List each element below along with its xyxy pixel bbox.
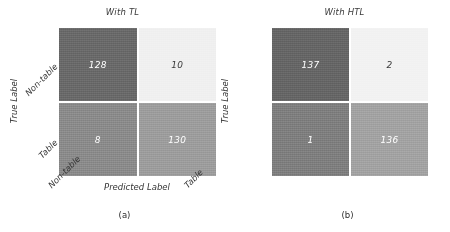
panel-b-cell-0-1: 2	[351, 28, 428, 101]
panel-a-cell-1-1: 130	[139, 103, 217, 176]
panel-a-cell-0-0-value: 128	[89, 60, 107, 70]
panel-b-cell-1-1: 136	[351, 103, 428, 176]
panel-b-y-axis-label: True Label	[220, 79, 230, 123]
panel-b-caption: (b)	[235, 210, 450, 220]
panel-a-caption: (a)	[12, 210, 237, 220]
panel-b-cell-0-0: 137	[272, 28, 349, 101]
confusion-matrix-figure: With TL True Label Non-table Table 128 1…	[0, 0, 450, 232]
panel-b-cell-1-1-value: 136	[380, 135, 398, 145]
panel-a-cell-0-1: 10	[139, 28, 217, 101]
panel-a-title: With TL	[10, 7, 235, 17]
panel-a-cell-1-1-value: 130	[168, 135, 186, 145]
panel-with-htl: With HTL True Label Non-table Table 137 …	[225, 0, 450, 232]
panel-a-y-tick-table: Table	[19, 137, 60, 178]
panel-b-cell-0-0-value: 137	[301, 60, 319, 70]
panel-b-title: With HTL	[232, 7, 450, 17]
panel-b-cell-1-0: 1	[272, 103, 349, 176]
panel-b-matrix: 137 2 1 136	[272, 28, 428, 176]
panel-a-x-axis-label: Predicted Label	[104, 182, 170, 192]
panel-with-tl: With TL True Label Non-table Table 128 1…	[0, 0, 225, 232]
panel-a-cell-1-0-value: 8	[95, 135, 101, 145]
panel-a-matrix: 128 10 8 130	[59, 28, 216, 176]
panel-a-cell-0-0: 128	[59, 28, 137, 101]
panel-a-cell-0-1-value: 10	[171, 60, 183, 70]
panel-b-cell-0-1-value: 2	[386, 60, 392, 70]
panel-b-cell-1-0-value: 1	[307, 135, 313, 145]
